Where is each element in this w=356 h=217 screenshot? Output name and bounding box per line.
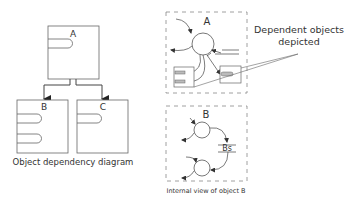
internal-view-a: A Dependent objects	[166, 12, 344, 93]
object-dependency-diagram: A B C Object dependency diagram	[13, 26, 134, 167]
internal-view-b: B Bs Internal view of object B	[166, 106, 247, 195]
object-a-box: A	[48, 26, 99, 79]
process-circle	[192, 33, 214, 55]
process-circle	[194, 160, 210, 176]
arrow-a-to-c	[76, 79, 102, 99]
internal-a-label: A	[204, 16, 211, 27]
store-bs-label: Bs	[222, 144, 232, 153]
object-a-label: A	[70, 29, 77, 39]
internal-b-label: B	[203, 109, 210, 120]
object-c-box: C	[77, 100, 128, 153]
dependent-store-right	[220, 66, 241, 83]
object-b-label: B	[41, 102, 47, 112]
object-c-label: C	[100, 102, 106, 112]
diagram-canvas: A B C Object dependency diagram A	[0, 0, 356, 217]
callout-line-2: depicted	[278, 36, 319, 47]
process-circle	[194, 122, 210, 138]
callout-line-1: Dependent objects	[254, 24, 344, 35]
object-b-box: B	[17, 100, 68, 153]
arrow-a-to-b	[44, 79, 70, 99]
internal-b-caption: Internal view of object B	[166, 187, 245, 195]
dependent-store-left	[174, 67, 194, 87]
left-caption: Object dependency diagram	[13, 157, 134, 167]
dependency-arrows	[44, 79, 102, 99]
